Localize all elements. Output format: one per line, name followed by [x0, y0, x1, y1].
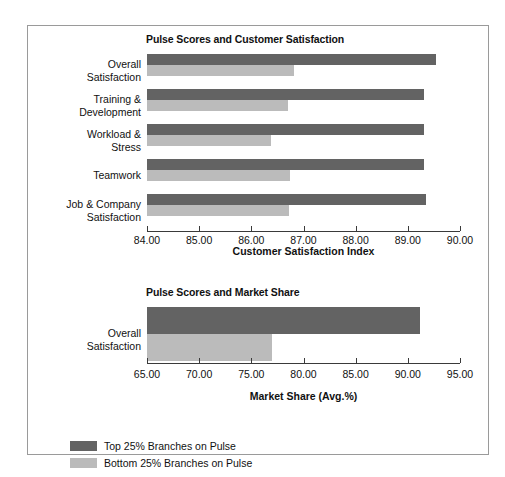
x-axis-tick [356, 226, 357, 231]
category-label-line: Overall [31, 327, 141, 340]
x-axis-tick [460, 358, 461, 363]
x-axis-tick [147, 358, 148, 363]
x-axis-tick-label: 70.00 [186, 368, 212, 380]
x-axis-tick [199, 358, 200, 363]
category-label: OverallSatisfaction [31, 58, 141, 84]
legend-swatch-top [70, 441, 97, 451]
x-axis-tick [304, 358, 305, 363]
bar-bottom [147, 100, 288, 111]
x-axis-tick [304, 226, 305, 231]
category-label-line: Overall [31, 58, 141, 71]
x-axis-tick [408, 358, 409, 363]
x-axis-tick [251, 358, 252, 363]
x-axis-tick-label: 80.00 [290, 368, 316, 380]
legend-swatch-bottom [70, 458, 97, 468]
chart-title-bottom: Pulse Scores and Market Share [146, 286, 300, 298]
category-label-line: Satisfaction [31, 71, 141, 84]
x-axis-tick-label: 85.00 [186, 234, 212, 246]
category-label-line: Workload & [31, 128, 141, 141]
x-axis-tick [251, 226, 252, 231]
x-axis-tick-label: 90.00 [447, 234, 473, 246]
category-label-line: Teamwork [31, 169, 141, 182]
category-label: OverallSatisfaction [31, 327, 141, 353]
x-axis-line [147, 363, 460, 364]
legend-label: Bottom 25% Branches on Pulse [104, 457, 252, 469]
x-axis-tick [408, 226, 409, 231]
x-axis-line [147, 231, 460, 232]
bar-top [147, 89, 424, 100]
chart-title-top: Pulse Scores and Customer Satisfaction [146, 33, 344, 45]
chart-top-x-axis-title: Customer Satisfaction Index [233, 245, 375, 257]
bar-top [147, 307, 420, 334]
figure-canvas: Pulse Scores and Customer Satisfaction O… [0, 0, 505, 477]
category-label-line: Stress [31, 141, 141, 154]
category-label: Training &Development [31, 93, 141, 119]
category-label: Teamwork [31, 169, 141, 182]
x-axis-tick-label: 95.00 [447, 368, 473, 380]
x-axis-tick-label: 89.00 [395, 234, 421, 246]
x-axis-tick-label: 75.00 [238, 368, 264, 380]
chart-legend: Top 25% Branches on PulseBottom 25% Bran… [70, 437, 252, 471]
bar-top [147, 124, 424, 135]
x-axis-tick [356, 358, 357, 363]
legend-item: Bottom 25% Branches on Pulse [70, 454, 252, 471]
bar-bottom [147, 205, 289, 216]
category-label: Workload &Stress [31, 128, 141, 154]
legend-label: Top 25% Branches on Pulse [104, 440, 236, 452]
bar-top [147, 54, 436, 65]
bar-bottom [147, 334, 272, 361]
category-label-line: Job & Company [31, 198, 141, 211]
bar-bottom [147, 65, 294, 76]
x-axis-tick-label: 85.00 [343, 368, 369, 380]
chart-bottom-x-axis-title: Market Share (Avg.%) [250, 390, 358, 402]
bar-top [147, 194, 426, 205]
figure-frame: Pulse Scores and Customer Satisfaction O… [27, 25, 489, 455]
bar-bottom [147, 170, 290, 181]
legend-item: Top 25% Branches on Pulse [70, 437, 252, 454]
bar-bottom [147, 135, 271, 146]
category-label: Job & CompanySatisfaction [31, 198, 141, 224]
category-label-line: Training & [31, 93, 141, 106]
x-axis-tick-label: 90.00 [395, 368, 421, 380]
x-axis-tick [147, 226, 148, 231]
x-axis-tick [460, 226, 461, 231]
x-axis-tick-label: 65.00 [134, 368, 160, 380]
category-label-line: Satisfaction [31, 340, 141, 353]
category-label-line: Satisfaction [31, 211, 141, 224]
bar-top [147, 159, 424, 170]
category-label-line: Development [31, 106, 141, 119]
x-axis-tick [199, 226, 200, 231]
x-axis-tick-label: 84.00 [134, 234, 160, 246]
